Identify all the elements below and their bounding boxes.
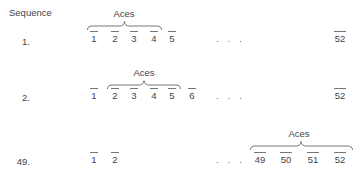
- row-2-slot-6: 6: [184, 88, 200, 102]
- row-1-slot-1: 1: [86, 31, 102, 45]
- row-49-aces-label: Aces: [279, 128, 319, 139]
- row-49-slot-2: 2: [107, 152, 123, 166]
- row-49-slot-50: 50: [278, 152, 294, 166]
- row-2-label: 2.: [0, 92, 30, 103]
- row-2-aces-label: Aces: [124, 67, 164, 78]
- row-1-slot-3: 3: [126, 31, 142, 45]
- row-2-slot-4: 4: [146, 88, 162, 102]
- row-1-slot-52: 52: [332, 31, 348, 45]
- row-2-slot-52: 52: [332, 88, 348, 102]
- row-1-slot-5: 5: [164, 31, 180, 45]
- row-2-slot-2: 2: [107, 88, 123, 102]
- row-1-slot-4: 4: [146, 31, 162, 45]
- row-1-slot-2: 2: [107, 31, 123, 45]
- row-1-label: 1.: [0, 36, 30, 47]
- row-2-slot-3: 3: [126, 88, 142, 102]
- row-49-slot-1: 1: [86, 152, 102, 166]
- row-49-slot-49: 49: [252, 152, 268, 166]
- row-49-aces-brace: [250, 141, 353, 151]
- row-49-slot-52: 52: [332, 152, 348, 166]
- row-49-label: 49.: [0, 156, 30, 167]
- row-1-aces-label: Aces: [104, 8, 144, 19]
- row-2-ellipsis: · · ·: [216, 93, 245, 103]
- row-49-slot-51: 51: [305, 152, 321, 166]
- row-2-slot-5: 5: [164, 88, 180, 102]
- row-1-ellipsis: · · ·: [216, 36, 245, 46]
- row-1-aces-brace: [87, 21, 162, 31]
- row-49-ellipsis: · · ·: [216, 157, 245, 167]
- sequence-header: Sequence: [9, 7, 52, 18]
- row-2-slot-1: 1: [86, 88, 102, 102]
